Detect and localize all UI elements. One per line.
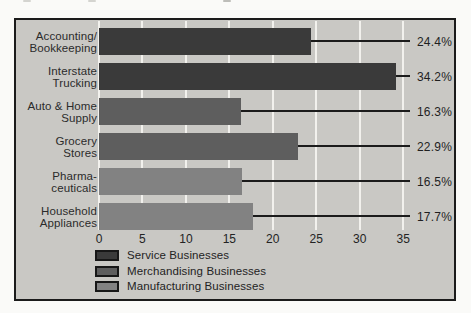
- legend-swatch-manufacturing-businesses: [95, 281, 119, 292]
- legend-swatch-service-businesses: [95, 250, 119, 261]
- scan-artifact: [223, 0, 231, 2]
- legend-item-merchandising-businesses: Merchandising Businesses: [95, 265, 266, 278]
- scan-artifact: [23, 0, 31, 2]
- legend-item-manufacturing-businesses: Manufacturing Businesses: [95, 280, 264, 293]
- legend-label-service-businesses: Service Businesses: [127, 249, 229, 262]
- legend-label-merchandising-businesses: Merchandising Businesses: [127, 265, 266, 278]
- legend-item-service-businesses: Service Businesses: [95, 249, 229, 262]
- legend-label-manufacturing-businesses: Manufacturing Businesses: [127, 280, 264, 293]
- scan-artifact: [88, 0, 96, 2]
- figure-page: Accounting/BookkeepingInterstateTrucking…: [0, 0, 471, 313]
- chart-area: Accounting/BookkeepingInterstateTrucking…: [14, 18, 456, 301]
- legend-swatch-merchandising-businesses: [95, 266, 119, 277]
- legend-layer: Service BusinessesMerchandising Business…: [16, 20, 454, 299]
